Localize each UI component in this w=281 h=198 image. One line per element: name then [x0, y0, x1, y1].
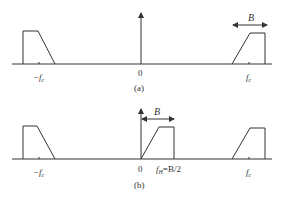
spectrum-diagram: B −fc 0 fc (a) B −fc 0 fH=B/2 fc (b): [0, 0, 281, 198]
caption-b: (b): [134, 180, 145, 190]
zero-label: 0: [138, 164, 143, 174]
zero-label: 0: [138, 68, 143, 78]
bandwidth-label: B: [248, 12, 254, 23]
caption-a: (a): [134, 83, 144, 93]
negative-band-spectrum: [23, 31, 55, 64]
neg-fc-label: −fc: [33, 167, 45, 178]
neg-fc-label: −fc: [33, 72, 45, 83]
fh-label: fH=B/2: [156, 164, 181, 175]
fc-label: fc: [246, 167, 252, 178]
baseband-spectrum: [141, 127, 174, 159]
positive-band-spectrum: [232, 33, 265, 64]
panel-b: B −fc 0 fH=B/2 fc (b): [12, 106, 272, 190]
negative-band-spectrum: [23, 126, 55, 159]
panel-a: B −fc 0 fc (a): [12, 12, 272, 93]
fc-label: fc: [246, 72, 252, 83]
positive-band-spectrum: [232, 128, 265, 159]
bandwidth-label: B: [154, 106, 160, 117]
